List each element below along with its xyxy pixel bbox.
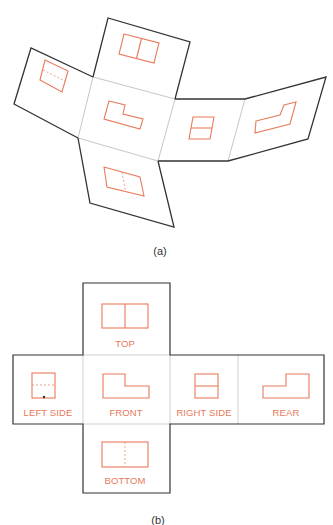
left-side-marker-dot bbox=[43, 396, 45, 398]
label-right-side: RIGHT SIDE bbox=[176, 407, 231, 418]
right-rear-faces-a-outline bbox=[158, 77, 326, 161]
top-face-a-outline bbox=[93, 18, 190, 99]
bottom-view bbox=[102, 442, 148, 467]
label-front: FRONT bbox=[109, 407, 142, 418]
part-b-orthographic-layout: TOP LEFT SIDE FRONT RIGHT SIDE REAR BOTT… bbox=[13, 283, 324, 525]
caption-b: (b) bbox=[151, 514, 164, 525]
right-side-view bbox=[195, 374, 218, 398]
bottom-face-a-outline bbox=[78, 138, 174, 227]
part-a-unfolded-box: (a) bbox=[14, 18, 326, 257]
label-left-side: LEFT SIDE bbox=[24, 407, 73, 418]
left-side-view bbox=[32, 373, 55, 398]
front-view-a bbox=[104, 101, 143, 129]
label-top: TOP bbox=[115, 338, 135, 349]
front-face-a bbox=[78, 77, 175, 161]
top-view bbox=[102, 304, 148, 328]
rear-view-a bbox=[255, 102, 296, 133]
front-view bbox=[103, 374, 149, 398]
left-view-a bbox=[40, 60, 68, 92]
unfolded-outline-b bbox=[13, 283, 324, 493]
label-bottom: BOTTOM bbox=[104, 475, 145, 486]
label-rear: REAR bbox=[273, 407, 300, 418]
caption-a: (a) bbox=[153, 245, 166, 257]
rear-view bbox=[263, 374, 309, 398]
glass-box-diagram: (a) bbox=[0, 0, 333, 525]
